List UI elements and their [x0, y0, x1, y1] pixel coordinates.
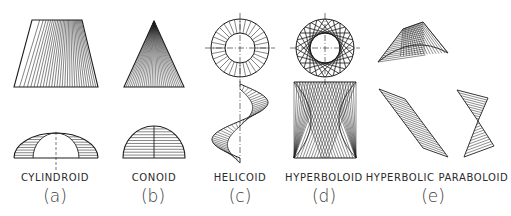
cylindroid-label: CYLINDROID — [21, 172, 89, 183]
helicoid-drawing — [205, 13, 275, 163]
conoid-drawing — [123, 21, 185, 158]
cylindroid-drawing — [14, 20, 98, 170]
hyperbolic-paraboloid-label: HYPERBOLIC PARABOLOID — [366, 172, 509, 183]
hyperboloid-drawing — [290, 13, 360, 158]
panel-c-tag: (c) — [229, 186, 252, 206]
helicoid-label: HELICOID — [214, 172, 267, 183]
panel-e-tag: (e) — [421, 186, 445, 206]
ruled-surfaces-figure: CYLINDROID (a) CONOID (b) HELICOID (c) H… — [0, 0, 511, 216]
conoid-label: CONOID — [132, 172, 176, 183]
panel-b-tag: (b) — [141, 186, 165, 206]
hyperboloid-label: HYPERBOLOID — [285, 172, 363, 183]
panel-d-tag: (d) — [312, 186, 336, 206]
hyperbolic-paraboloid-drawing — [378, 22, 494, 157]
panel-a-tag: (a) — [43, 186, 67, 206]
